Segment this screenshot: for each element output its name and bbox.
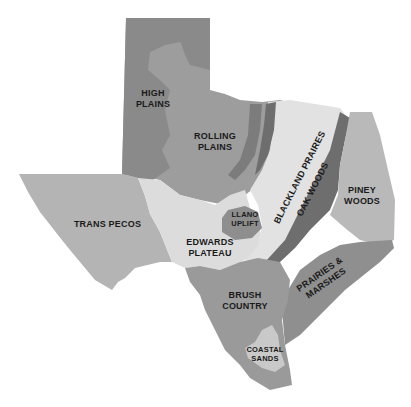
- label-piney-woods: PINEY WOODS: [340, 185, 384, 207]
- label-rolling-plains: ROLLING PLAINS: [188, 131, 242, 153]
- label-trans-pecos: TRANS PECOS: [70, 219, 145, 230]
- label-coastal-sands: COASTAL SANDS: [246, 345, 284, 363]
- label-edwards-plateau: EDWARDS PLATEAU: [180, 237, 240, 259]
- label-llano-uplift: LLANO UPLIFT: [228, 210, 262, 228]
- label-high-plains: HIGH PLAINS: [133, 88, 173, 110]
- label-brush-country: BRUSH COUNTRY: [215, 290, 275, 312]
